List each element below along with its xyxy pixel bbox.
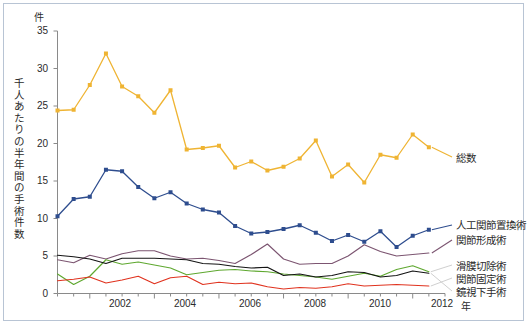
legend-label-arthrodesis: 関節固定術 bbox=[456, 273, 506, 285]
legend-label-total: 総数 bbox=[456, 152, 476, 164]
y-tick-label-5: 5 bbox=[28, 250, 48, 261]
y-tick-label-35: 35 bbox=[28, 25, 48, 36]
x-tick-label-2012: 2012 bbox=[422, 298, 462, 309]
plot-area bbox=[0, 0, 528, 325]
chart-screenshot: 件 千人あたりの半年間の手術件数 0 5 10 15 20 25 30 35 2… bbox=[0, 0, 528, 325]
x-tick-label-2002: 2002 bbox=[100, 298, 140, 309]
y-tick-label-10: 10 bbox=[28, 213, 48, 224]
x-axis-unit-label: 年 bbox=[461, 298, 471, 313]
y-tick-label-15: 15 bbox=[28, 175, 48, 186]
y-tick-label-30: 30 bbox=[28, 63, 48, 74]
legend-leader-lines bbox=[431, 147, 452, 291]
x-tick-label-2010: 2010 bbox=[360, 298, 400, 309]
x-tick-label-2006: 2006 bbox=[230, 298, 270, 309]
legend-label-arthroscopic: 鏡視下手術 bbox=[456, 286, 506, 298]
y-tick-label-0: 0 bbox=[28, 288, 48, 299]
data-series-layer bbox=[56, 52, 431, 290]
legend-label-arthroplasty: 人工関節置換術 bbox=[456, 219, 526, 231]
y-tick-label-25: 25 bbox=[28, 100, 48, 111]
legend-label-synovectomy: 滑膜切除術 bbox=[456, 260, 506, 272]
x-tick-label-2008: 2008 bbox=[295, 298, 335, 309]
x-tick-label-2004: 2004 bbox=[165, 298, 205, 309]
y-tick-label-20: 20 bbox=[28, 138, 48, 149]
legend-label-osteotomy: 関節形成術 bbox=[456, 234, 506, 246]
y-tick-marks bbox=[54, 31, 58, 294]
